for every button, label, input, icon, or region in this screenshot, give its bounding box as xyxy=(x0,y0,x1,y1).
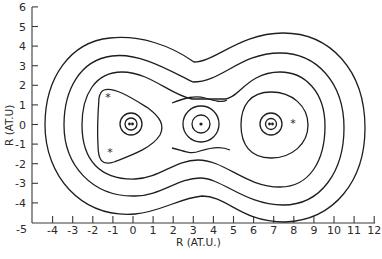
contour-middle-top xyxy=(172,97,227,103)
y-axis-ticks: 6543210-1-2-3-4-5 xyxy=(15,1,38,236)
x-axis-ticks: -4-3-2-10123456789101112 xyxy=(47,216,381,237)
contour-outer-3 xyxy=(82,72,325,187)
y-tick-label: -5 xyxy=(16,223,27,236)
x-tick-label: 7 xyxy=(270,224,277,237)
contour-middle-bottom xyxy=(172,147,230,152)
x-tick-label: 5 xyxy=(230,224,237,237)
x-axis-title: R (AT.U.) xyxy=(176,236,221,248)
y-tick-label: 2 xyxy=(19,79,26,92)
x-tick-label: -2 xyxy=(87,224,98,237)
x-tick-label: 6 xyxy=(250,224,257,237)
asterisk-icon: * xyxy=(290,117,296,130)
circle-right-outer xyxy=(260,113,282,135)
x-tick-label: 10 xyxy=(327,224,341,237)
contour-lines xyxy=(45,33,365,222)
y-tick-label: -3 xyxy=(15,177,26,190)
y-axis-title: R (AT.U) xyxy=(3,105,15,146)
y-tick-label: 4 xyxy=(19,40,26,53)
x-tick-label: -1 xyxy=(107,224,118,237)
x-tick-label: -3 xyxy=(67,224,78,237)
x-tick-label: -4 xyxy=(47,224,58,237)
nuclei-markers xyxy=(128,122,274,125)
y-tick-label: 6 xyxy=(19,1,26,14)
nucleus-left-dot-a xyxy=(128,123,131,126)
y-tick-label: 1 xyxy=(19,99,26,112)
x-tick-label: 11 xyxy=(347,224,361,237)
circle-right-inner xyxy=(266,119,277,130)
y-tick-label: -4 xyxy=(15,197,26,210)
asterisk-icon: * xyxy=(107,146,113,159)
contour-plot: 6543210-1-2-3-4-5 -4-3-2-101234567891011… xyxy=(0,0,382,259)
y-tick-label: 0 xyxy=(19,119,26,132)
contour-inner-right xyxy=(241,92,308,158)
nucleus-left-dot-b xyxy=(131,123,134,126)
nucleus-right-dot-b xyxy=(271,123,274,126)
y-tick-label: 5 xyxy=(19,21,26,34)
nucleus-right-dot-a xyxy=(268,123,271,126)
y-tick-label: -1 xyxy=(15,138,26,151)
nucleus-mid-dot xyxy=(199,122,202,125)
x-tick-label: 8 xyxy=(290,224,297,237)
circle-left-inner xyxy=(125,118,137,130)
asterisk-icon: * xyxy=(105,91,111,104)
y-tick-label: 3 xyxy=(19,60,26,73)
x-tick-label: 9 xyxy=(310,224,317,237)
x-tick-label: 12 xyxy=(367,224,381,237)
y-tick-label: -2 xyxy=(15,158,26,171)
x-tick-label: 0 xyxy=(130,224,137,237)
circle-left-outer xyxy=(120,113,142,135)
x-tick-label: 1 xyxy=(150,224,157,237)
